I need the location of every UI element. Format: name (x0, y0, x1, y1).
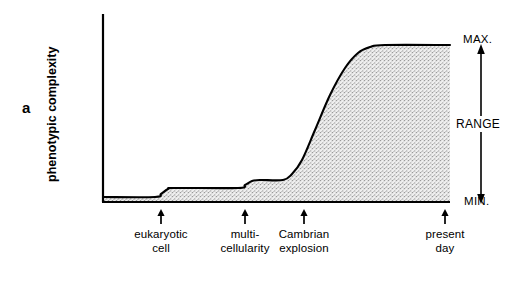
max-label: MAX. (463, 34, 492, 46)
complexity-area-fill (103, 45, 450, 202)
event-tick-arrowhead (157, 209, 164, 216)
event-tick-arrowhead (241, 209, 248, 216)
range-label: RANGE (455, 116, 501, 132)
figure-panel-a: a phenotypic complexity RA (0, 0, 518, 284)
event-tick-arrows (157, 209, 448, 224)
event-label: present day (395, 228, 495, 255)
event-tick-arrowhead (441, 209, 448, 216)
event-label: Cambrian explosion (254, 228, 354, 255)
min-label: MIN. (464, 196, 489, 208)
event-tick-arrowhead (300, 209, 307, 216)
